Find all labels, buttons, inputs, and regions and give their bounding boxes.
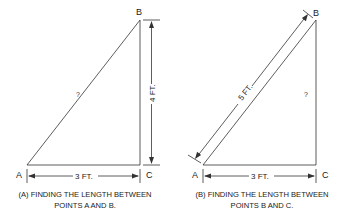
diagram-a: 4 FT. 3 FT. ? A B C (A) FINDING THE LENG… <box>16 7 160 210</box>
pythagorean-diagrams: 4 FT. 3 FT. ? A B C (A) FINDING THE LENG… <box>0 0 339 218</box>
point-label-b: B <box>136 7 142 17</box>
caption-b-line1: (B) FINDING THE LENGTH BETWEEN <box>195 190 328 199</box>
point-label-c: C <box>146 170 153 180</box>
side-ab <box>203 20 316 165</box>
arrow-down-icon <box>149 157 154 164</box>
diagram-b: 5 FT. 3 FT. ? A B C (B) FINDING THE LENG… <box>188 8 329 210</box>
arrow-left-icon <box>28 174 35 179</box>
point-label-c: C <box>322 170 329 180</box>
dimension-label-3ft: 3 FT. <box>251 172 269 181</box>
arrow-left-icon <box>204 174 211 179</box>
arrow-right-icon <box>132 174 139 179</box>
dimension-line-diagonal-upper <box>252 15 307 86</box>
point-label-a: A <box>16 170 22 180</box>
unknown-length-label: ? <box>76 91 80 98</box>
arrow-up-icon <box>149 21 154 28</box>
dimension-line-diagonal-lower <box>196 104 238 158</box>
caption-a-line1: (A) FINDING THE LENGTH BETWEEN <box>18 190 151 199</box>
side-ab <box>27 20 140 165</box>
dimension-label-3ft: 3 FT. <box>75 172 93 181</box>
caption-b-line2: POINTS B AND C. <box>231 201 294 210</box>
dimension-label-4ft: 4 FT. <box>148 84 157 102</box>
unknown-length-label: ? <box>304 91 308 98</box>
arrow-right-icon <box>308 174 315 179</box>
point-label-b: B <box>313 8 319 18</box>
caption-a-line2: POINTS A AND B. <box>54 201 116 210</box>
point-label-a: A <box>192 170 198 180</box>
